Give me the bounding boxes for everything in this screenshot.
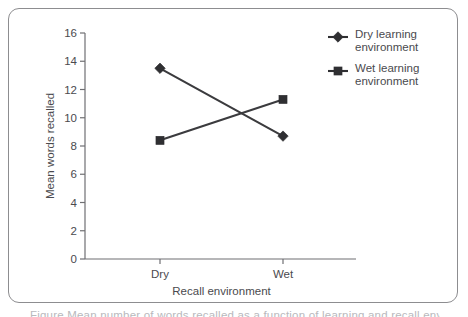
y-tick-label: 14 (51, 55, 77, 67)
x-category-label: Dry (151, 268, 169, 280)
data-point-marker (279, 95, 287, 103)
plot-area: 0246810121416 DryWet Recall environment … (0, 0, 468, 317)
y-tick-label: 2 (51, 225, 77, 237)
figure-container: 0246810121416 DryWet Recall environment … (0, 0, 468, 317)
legend-entry[interactable]: Dry learning environment (327, 28, 452, 53)
figure-caption-sliver: Figure Mean number of words recalled as … (30, 309, 440, 317)
y-axis-title: Mean words recalled (44, 93, 56, 199)
legend-square-marker-icon (327, 63, 349, 75)
x-axis-title: Recall environment (172, 285, 270, 297)
legend-label: Wet learning environment (355, 62, 450, 87)
x-category-label: Wet (273, 268, 293, 280)
data-point-marker (155, 63, 165, 73)
y-tick-label: 16 (51, 27, 77, 39)
data-point-marker (278, 131, 288, 141)
data-point-marker (156, 136, 164, 144)
series-line (160, 99, 283, 140)
series-line (160, 68, 283, 136)
y-axis-ticks (80, 33, 85, 259)
y-tick-label: 0 (51, 253, 77, 265)
legend-diamond-marker-icon (327, 29, 349, 41)
x-axis-ticks (160, 259, 283, 264)
chart-legend: Dry learning environmentWet learning env… (327, 28, 452, 96)
legend-entry[interactable]: Wet learning environment (327, 62, 452, 87)
legend-label: Dry learning environment (355, 28, 450, 53)
series-lines (160, 68, 283, 140)
